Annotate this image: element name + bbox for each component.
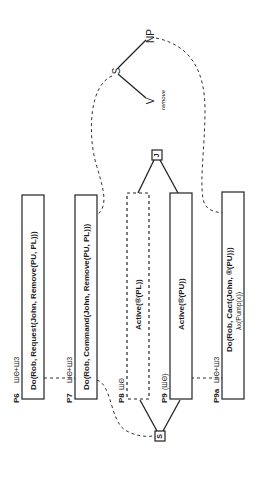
tree-node-np: NP [145,29,156,43]
svg-text:ШΘ+Ш3: ШΘ+Ш3 [13,357,20,383]
svg-text:Active(®(PU)): Active(®(PU)) [177,278,186,330]
svg-text:P9a: P9a [212,388,221,403]
svg-text:S: S [156,434,163,439]
proposition-box-p7: Do(Rob, Command(John, Remove(PU, PL))) P… [65,195,97,403]
proposition-box-p9: Active(®(PU)) P9 (ШΘ) [160,193,192,403]
syntax-tree: S NP V remove [111,29,166,110]
svg-text:Do(Rob, Request(John, Remove(P: Do(Rob, Request(John, Remove(PU, PL))) [29,231,38,390]
svg-text:J: J [153,153,160,157]
tree-edge-s-v [118,74,146,98]
svg-text:(ШΘ): (ШΘ) [161,373,169,390]
svg-text:ШΘ: ШΘ [118,378,125,390]
join-node-j: J [138,150,178,193]
svg-text:λx(Pump(x)): λx(Pump(x)) [235,292,243,330]
svg-text:ШΘ+Ш3: ШΘ+Ш3 [213,357,220,383]
link-s-to-p7 [91,76,112,215]
svg-text:Do(Rob, Command(John, Remove(P: Do(Rob, Command(John, Remove(PU, PL))) [82,223,91,390]
proposition-box-p6: Do(Rob, Request(John, Remove(PU, PL))) P… [12,195,44,403]
join-node-s: S [140,400,180,441]
svg-text:Do(Rob, Cact(John, ®(PU))): Do(Rob, Cact(John, ®(PU))) [225,247,234,352]
svg-text:Active(®(PL)): Active(®(PL)) [134,279,143,330]
svg-text:ШΘ+Ш3: ШΘ+Ш3 [66,357,73,383]
svg-text:P6: P6 [12,393,21,403]
tree-edge-s-np [118,40,146,68]
link-np-to-p9a [156,38,222,213]
svg-text:P9: P9 [160,393,169,403]
proposition-box-p8: Active(®(PL)) P8 ШΘ [117,193,149,403]
svg-text:P7: P7 [65,393,74,403]
tree-node-s: S [111,67,122,74]
svg-text:P8: P8 [117,393,126,403]
proposition-box-p9a: Do(Rob, Cact(John, ®(PU))) λx(Pump(x)) P… [212,192,244,403]
tree-node-v: V [145,97,156,104]
tree-v-annotation: remove [160,89,166,110]
diagram-canvas: S NP V remove J S Do(Rob, Request(John, … [0,0,257,479]
